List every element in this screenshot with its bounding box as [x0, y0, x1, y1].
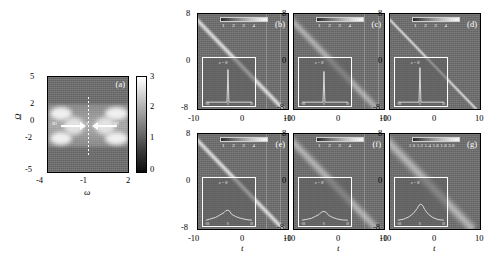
panel-e-ytick-8: 8	[186, 129, 190, 138]
panel-c-inset-xtick-max: 10	[346, 102, 349, 106]
panel-d-heatmap: z = 0 -10 0 10 1 2 3 4 (d)	[389, 13, 481, 110]
panel-d-colorbar	[412, 17, 460, 22]
panel-e-colorbar	[220, 137, 268, 142]
panel-e-inset-xtick-min: -10	[205, 222, 209, 226]
panel-c-xtick-neg10: -10	[284, 114, 295, 123]
panel-d-inset-xtick-min: -10	[397, 102, 401, 106]
panel-c-colorbar	[316, 17, 364, 22]
panel-b-ytick-0: 0	[186, 56, 190, 65]
panel-a-ytick-2: 2	[30, 99, 34, 108]
panel-e-xtick-neg10: -10	[188, 234, 199, 243]
panel-a-xtick-neg4: -4	[36, 176, 43, 185]
panel-d-tag: (d)	[467, 19, 477, 29]
panel-f-ytick-neg8: -8	[277, 223, 284, 232]
panel-g-xlabel: t	[433, 243, 436, 253]
panel-d-inset-xtick-max: 10	[442, 102, 445, 106]
panel-a-arrow-left-head	[80, 122, 86, 130]
panel-b-inset-xtick-min: -10	[205, 102, 209, 106]
panel-c-ytick-neg8: -8	[277, 103, 284, 112]
panel-g-ytick-neg8: -8	[373, 223, 380, 232]
panel-a-ylabel: Ω	[13, 113, 23, 120]
panel-e-inset: z = 0 -10 0 10	[202, 177, 256, 227]
panel-f-xtick-0: 0	[336, 234, 340, 243]
panel-f-colorbar-ticks: 1 2 3 4	[318, 143, 354, 148]
panel-a-label-mi-left: MI	[52, 122, 57, 126]
panel-a-arrow-right-head	[92, 122, 98, 130]
panel-b-ytick-8: 8	[186, 9, 190, 18]
panel-b-xtick-0: 0	[240, 114, 244, 123]
panel-d-xtick-0: 0	[432, 114, 436, 123]
panel-f-xtick-neg10: -10	[284, 234, 295, 243]
panel-a-colorbar	[136, 76, 147, 173]
panel-a-arrow-right-shaft	[97, 125, 117, 127]
panel-a-ytick-neg2: -2	[25, 133, 32, 142]
panel-c-ytick-0: 0	[282, 56, 286, 65]
panel-c-inset: z = 0 -10 0 10	[298, 57, 352, 107]
panel-f-inset-xtick-min: -10	[301, 222, 305, 226]
panel-g-inset-curve	[395, 178, 447, 226]
panel-e-ytick-0: 0	[186, 176, 190, 185]
panel-g-xtick-neg10: -10	[380, 234, 391, 243]
panel-e-xlabel: t	[241, 243, 244, 253]
panel-b-inset-curve	[203, 58, 255, 106]
panel-g-xtick-0: 0	[432, 234, 436, 243]
panel-f-xlabel: t	[337, 243, 340, 253]
panel-g-heatmap: z = 0 -10 0 10 1.0 1.2 1.4 1.6 1.8 2.0 (…	[389, 133, 481, 230]
panel-e-xtick-0: 0	[240, 234, 244, 243]
panel-d-inset: z = 0 -10 0 10	[394, 57, 448, 107]
panel-d-ytick-0: 0	[378, 56, 382, 65]
panel-b-colorbar	[220, 17, 268, 22]
panel-f-inset-xtick-max: 10	[346, 222, 349, 226]
panel-d-xtick-neg10: -10	[380, 114, 391, 123]
panel-g-colorbar-ticks: 1.0 1.2 1.4 1.6 1.8 2.0	[409, 143, 455, 148]
panel-c-tag: (c)	[372, 19, 381, 29]
panel-g-xtick-10: 10	[475, 234, 484, 243]
panel-a-separatrix	[88, 97, 89, 155]
panel-d-ytick-8: 8	[378, 9, 382, 18]
panel-a-xtick-neg1: -1	[80, 176, 87, 185]
panel-f-colorbar	[316, 137, 364, 142]
panel-a-ytick-neg5: -5	[25, 165, 32, 174]
panel-a-ytick-5: 5	[30, 72, 34, 81]
panel-b-xtick-neg10: -10	[188, 114, 199, 123]
panel-g-tag: (g)	[467, 139, 477, 149]
panel-b-inset: z = 0 -10 0 10	[202, 57, 256, 107]
panel-f-inset-xtick-mid: 0	[323, 222, 325, 226]
panel-d-inset-curve	[395, 58, 447, 106]
panel-c-inset-xtick-min: -10	[301, 102, 305, 106]
panel-a-label-s: S	[86, 122, 88, 126]
panel-a-ytick-0: 0	[30, 116, 34, 125]
panel-c-xtick-0: 0	[336, 114, 340, 123]
panel-g-inset-xtick-max: 10	[442, 222, 445, 226]
panel-f-tag: (f)	[373, 139, 382, 149]
panel-e-heatmap: z = 0 -10 0 10 1 2 3 4 (e)	[197, 133, 289, 230]
panel-f-ytick-0: 0	[282, 176, 286, 185]
panel-c-inset-curve	[299, 58, 351, 106]
panel-d-inset-xtick-mid: 0	[419, 102, 421, 106]
panel-a-xtick-2: 2	[126, 176, 130, 185]
panel-a-cbar-tick-2: 2	[150, 102, 154, 111]
panel-g-colorbar	[412, 137, 460, 142]
panel-g-inset: z = 0 -10 0 10	[394, 177, 448, 227]
panel-d-xtick-10: 10	[475, 114, 484, 123]
panel-b-inset-xtick-max: 10	[250, 102, 253, 106]
panel-e-inset-xtick-max: 10	[250, 222, 253, 226]
panel-c-heatmap: z = 0 -10 0 10 1 2 3 4 (c)	[293, 13, 385, 110]
panel-a-cbar-tick-3: 3	[150, 72, 154, 81]
panel-d-ytick-neg8: -8	[373, 103, 380, 112]
panel-e-ytick-neg8: -8	[181, 223, 188, 232]
panel-g-ytick-0: 0	[378, 176, 382, 185]
panel-e-inset-xtick-mid: 0	[227, 222, 229, 226]
panel-b-heatmap: z = 0 -10 0 10 1 2 3 4 (b)	[197, 13, 289, 110]
panel-a-cbar-tick-1: 1	[150, 133, 154, 142]
panel-a-xlabel: ω	[84, 187, 90, 197]
panel-a-arrow-left-shaft	[61, 125, 81, 127]
panel-c-colorbar-ticks: 1 2 3 4	[318, 23, 354, 28]
panel-a-heatmap: MI S MI (a)	[47, 76, 129, 173]
panel-a-tag: (a)	[116, 79, 125, 89]
panel-d-colorbar-ticks: 1 2 3 4	[414, 23, 450, 28]
panel-e-inset-curve	[203, 178, 255, 226]
panel-b-tag: (b)	[275, 19, 285, 29]
panel-f-inset-curve	[299, 178, 351, 226]
panel-b-colorbar-ticks: 1 2 3 4	[222, 23, 258, 28]
